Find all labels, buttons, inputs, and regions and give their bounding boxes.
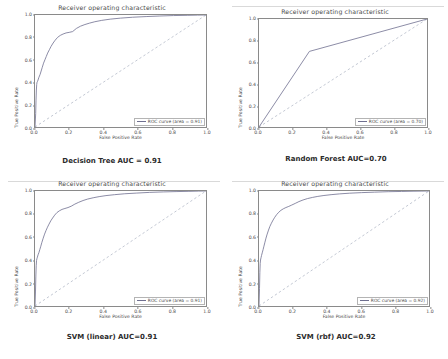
- roc-plot-svg: [35, 191, 206, 306]
- legend-decision-tree: ROC curve (area = 0.91): [134, 118, 205, 126]
- roc-plot-svg: [259, 19, 427, 127]
- axes-decision-tree: [34, 14, 207, 128]
- y-tick: 0.6: [249, 234, 256, 239]
- axes-svm-rbf: [258, 190, 430, 307]
- y-axis-label: True Positive Rate: [14, 87, 19, 128]
- plot-area-random-forest: True Positive Rate 0.0 0.2 0.4 0.6 0.8 1…: [258, 18, 428, 128]
- y-tick: 1.0: [25, 12, 32, 17]
- roc-plot-svg: [259, 191, 429, 306]
- figure-decision-tree: Receiver operating characteristic True P…: [6, 4, 218, 152]
- y-tick: 0.8: [25, 34, 32, 39]
- roc-figure-grid: Receiver operating characteristic True P…: [0, 0, 448, 359]
- chart-title: Receiver operating characteristic: [228, 8, 442, 15]
- x-axis-label: False Positive Rate: [34, 135, 207, 140]
- y-tick: 0.8: [249, 211, 256, 216]
- caption-decision-tree: Decision Tree AUC = 0.91: [0, 157, 224, 165]
- legend-svm-linear: ROC curve (area = 0.91): [134, 297, 205, 305]
- y-tick: 0.6: [25, 57, 32, 62]
- figure-random-forest: Receiver operating characteristic True P…: [228, 8, 442, 156]
- y-tick: 1.0: [249, 188, 256, 193]
- y-tick: 0.4: [249, 258, 256, 263]
- panel-svm-rbf: Receiver operating characteristic True P…: [224, 175, 448, 359]
- y-axis-label: True Positive Rate: [238, 87, 243, 128]
- y-tick: 0.4: [25, 80, 32, 85]
- panel-random-forest: Receiver operating characteristic True P…: [224, 0, 448, 175]
- legend-line-swatch: [358, 121, 367, 122]
- y-tick: 0.2: [25, 103, 32, 108]
- legend-line-swatch: [360, 300, 369, 301]
- y-axis-label: True Positive Rate: [238, 266, 243, 307]
- y-tick: 0.6: [249, 60, 256, 65]
- legend-line-swatch: [137, 121, 146, 122]
- axes-svm-linear: [34, 190, 207, 307]
- panel-decision-tree: Receiver operating characteristic True P…: [0, 0, 224, 175]
- y-tick: 1.0: [249, 16, 256, 21]
- figure-svm-linear: Receiver operating characteristic True P…: [6, 180, 218, 330]
- figure-svm-rbf: Receiver operating characteristic True P…: [228, 180, 442, 330]
- plot-area-decision-tree: True Positive Rate 0.0 0.2 0.4 0.6 0.8 1…: [34, 14, 207, 128]
- x-axis-label: False Positive Rate: [258, 314, 430, 319]
- y-axis-label: True Positive Rate: [14, 266, 19, 307]
- legend-label: ROC curve (area = 0.91): [148, 120, 202, 124]
- x-axis-label: False Positive Rate: [34, 314, 207, 319]
- y-tick: 0.8: [25, 211, 32, 216]
- y-tick: 0.8: [249, 38, 256, 43]
- y-tick: 1.0: [25, 188, 32, 193]
- chart-title: Receiver operating characteristic: [6, 180, 218, 187]
- legend-label: ROC curve (area = 0.92): [371, 299, 425, 303]
- axes-random-forest: [258, 18, 428, 128]
- x-axis-label: False Positive Rate: [258, 135, 428, 140]
- y-tick: 0.2: [249, 104, 256, 109]
- roc-plot-svg: [35, 15, 206, 127]
- y-tick: 0.2: [249, 281, 256, 286]
- caption-random-forest: Random Forest AUC=0.70: [224, 155, 448, 163]
- plot-area-svm-linear: True Positive Rate 0.0 0.2 0.4 0.6 0.8 1…: [34, 190, 207, 307]
- plot-area-svm-rbf: True Positive Rate 0.0 0.2 0.4 0.6 0.8 1…: [258, 190, 430, 307]
- chart-title: Receiver operating characteristic: [228, 180, 442, 187]
- caption-svm-linear: SVM (linear) AUC=0.91: [0, 333, 224, 341]
- legend-random-forest: ROC curve (area = 0.70): [355, 118, 426, 126]
- chart-title: Receiver operating characteristic: [6, 4, 218, 11]
- legend-label: ROC curve (area = 0.70): [369, 120, 423, 124]
- y-tick: 0.4: [25, 258, 32, 263]
- caption-svm-rbf: SVM (rbf) AUC=0.92: [224, 333, 448, 341]
- y-tick: 0.4: [249, 82, 256, 87]
- legend-svm-rbf: ROC curve (area = 0.92): [357, 297, 428, 305]
- panel-svm-linear: Receiver operating characteristic True P…: [0, 175, 224, 359]
- legend-line-swatch: [137, 300, 146, 301]
- y-tick: 0.6: [25, 234, 32, 239]
- legend-label: ROC curve (area = 0.91): [148, 299, 202, 303]
- y-tick: 0.2: [25, 281, 32, 286]
